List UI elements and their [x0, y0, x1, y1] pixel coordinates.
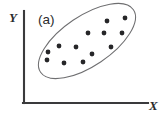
- data-point: [109, 45, 114, 50]
- data-point: [102, 31, 107, 36]
- panel-label: (a): [38, 12, 55, 27]
- scatter-plot-figure: Y X (a): [0, 0, 165, 121]
- y-axis-label: Y: [9, 10, 18, 25]
- data-point: [45, 58, 50, 63]
- data-points-group: [45, 16, 128, 66]
- x-axis-label: X: [148, 98, 158, 113]
- data-point: [123, 16, 128, 21]
- data-point: [90, 52, 95, 57]
- data-point: [120, 31, 125, 36]
- data-point: [81, 60, 86, 65]
- data-point: [57, 44, 62, 49]
- data-point: [62, 61, 67, 66]
- figure-canvas: Y X (a): [0, 0, 165, 121]
- data-point: [105, 19, 110, 24]
- data-point: [74, 45, 79, 50]
- data-point: [86, 31, 91, 36]
- data-point: [46, 50, 51, 55]
